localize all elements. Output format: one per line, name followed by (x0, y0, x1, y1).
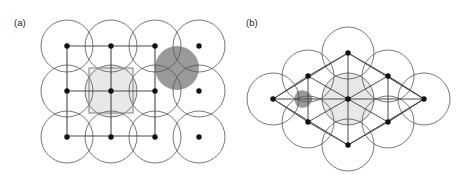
lattice-point (108, 134, 113, 139)
lattice-point (64, 88, 69, 93)
lattice-point (345, 142, 350, 147)
lattice-point (64, 43, 69, 48)
lattice-point (305, 119, 310, 124)
packing-figure: (a) (b) (0, 0, 462, 175)
lattice-point (385, 73, 390, 78)
lattice-point (385, 119, 390, 124)
figure-canvas: (a) (b) (0, 0, 462, 175)
lattice-point (421, 96, 426, 101)
lattice-point (152, 43, 157, 48)
lattice-point (270, 96, 275, 101)
panel-label-b: (b) (246, 17, 258, 28)
void-curved-square (155, 46, 199, 90)
lattice-point (108, 88, 113, 93)
interstitial-void-a (155, 46, 199, 90)
lattice-point (345, 50, 350, 55)
lattice-point (196, 43, 201, 48)
panel-label-a: (a) (14, 17, 26, 28)
lattice-point (152, 88, 157, 93)
lattice-point (64, 134, 69, 139)
lattice-point (152, 134, 157, 139)
lattice-point (305, 73, 310, 78)
lattice-point (108, 43, 113, 48)
lattice-point (345, 96, 350, 101)
lattice-point (196, 88, 201, 93)
figure-background (0, 0, 462, 175)
lattice-point (196, 134, 201, 139)
